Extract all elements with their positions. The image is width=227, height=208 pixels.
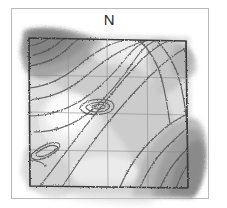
- figure-canvas: N: [0, 0, 227, 208]
- contour-map: [0, 0, 227, 208]
- shading-central-low-core: [46, 92, 94, 132]
